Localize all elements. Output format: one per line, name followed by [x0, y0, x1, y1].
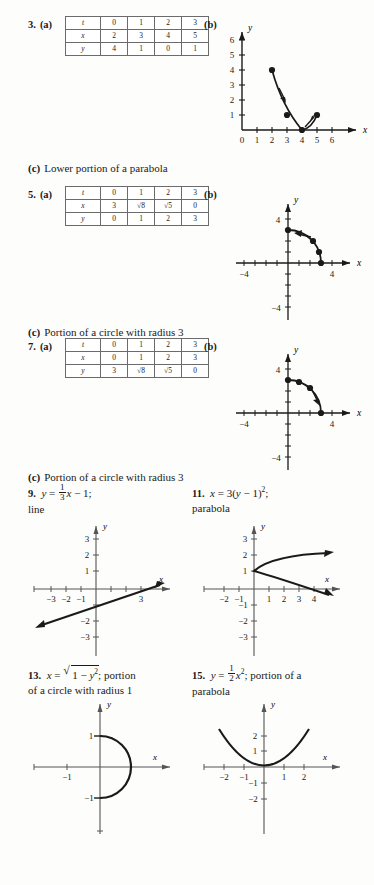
answer-13-heading: 13. x = √1 − y2; portion of a circle wit…: [28, 664, 193, 697]
problem-number: 7.: [28, 341, 36, 352]
y-tick-label: −3: [80, 632, 90, 642]
x-tick-label: 2: [302, 772, 307, 782]
y-axis-label: y: [293, 195, 299, 205]
problem-3-part-b-label: (b): [204, 14, 217, 32]
table-row: t 0 1 2 3: [66, 339, 209, 352]
y-tick-label: 1: [85, 566, 90, 576]
table-cell: 3: [182, 213, 209, 226]
y-tick-label: 6: [230, 35, 235, 45]
answer-description: line: [28, 502, 188, 516]
arrow-head: [155, 581, 165, 588]
data-points: [285, 227, 324, 266]
y-tick-label: 1: [243, 566, 248, 576]
part-b-label: (b): [204, 189, 217, 200]
table-row: x 3 √8 √5 0: [66, 200, 209, 213]
row-header: y: [66, 365, 101, 378]
table-cell: 3: [101, 365, 128, 378]
y-tick-label: 1: [230, 110, 235, 120]
y-tick-label: −2: [238, 616, 248, 626]
table-cell: 0: [155, 43, 182, 56]
part-c-text: Portion of a circle with radius 3: [44, 326, 183, 338]
part-c-label: (c): [28, 162, 40, 174]
problem-5-number-label: 5. (a): [28, 184, 52, 202]
y-tick-label: 2: [85, 550, 90, 560]
answer-15-graph: −2 −1 1 2 2 1 −1 −2 x y: [192, 694, 352, 844]
y-tick-label: 3: [243, 534, 248, 544]
y-tick-label: 1: [253, 746, 258, 756]
answer-9-heading: 9. y = 13x − 1; line: [28, 483, 188, 516]
answer-13-graph: −1 1 −1 x y: [22, 694, 182, 844]
x-axis-label: x: [356, 258, 362, 268]
table-cell: 0: [101, 352, 128, 365]
y-axis-label: y: [270, 699, 275, 709]
y-tick-label: 4: [230, 65, 235, 75]
fraction-one-third: 13: [59, 483, 66, 502]
table-row: y 0 1 2 3: [66, 213, 209, 226]
x-tick-label: −2: [61, 594, 71, 604]
row-header: t: [66, 187, 101, 200]
part-a-label: (a): [40, 189, 52, 200]
table-cell: 0: [101, 187, 128, 200]
table-row: t 0 1 2 3: [66, 17, 209, 30]
answer-equation: x: [44, 669, 52, 681]
problem-number: 3.: [28, 19, 36, 30]
row-header: x: [66, 352, 101, 365]
answer-11-graph: −2 −1 1 2 3 4 3 2 1 −1 −2 −3 x y: [192, 516, 352, 664]
table-cell: 3: [101, 200, 128, 213]
table-cell: 0: [101, 213, 128, 226]
y-tick-label: −1: [238, 600, 248, 610]
problem-7-graph: −4 4 4 −4 x y: [228, 340, 374, 480]
y-tick-label: 3: [85, 534, 90, 544]
problem-7-part-b-label: (b): [204, 336, 217, 354]
table-row: y 4 1 0 1: [66, 43, 209, 56]
x-tick-label: −1: [76, 594, 86, 604]
answer-number: 13.: [28, 670, 41, 681]
table-cell: 1: [128, 17, 155, 30]
table-cell: 2: [155, 352, 182, 365]
x-tick-label: 6: [330, 135, 335, 145]
part-c-label: (c): [28, 471, 40, 483]
row-header: y: [66, 43, 101, 56]
answer-key-page: 3. (a) t 0 1 2 3 x 2 3 4 5 y 4 1 0: [0, 0, 374, 885]
table-row: x 2 3 4 5: [66, 30, 209, 43]
table-cell: 4: [101, 43, 128, 56]
y-tick-label: −3: [238, 632, 248, 642]
table-cell: 0: [101, 339, 128, 352]
x-tick-label: 4: [330, 419, 335, 429]
y-axis-label: y: [106, 699, 111, 709]
part-b-label: (b): [204, 19, 217, 30]
curve: [39, 585, 160, 626]
x-tick-label: −4: [239, 419, 249, 429]
x-axis-label: x: [152, 752, 157, 762]
problem-number: 5.: [28, 189, 36, 200]
y-tick-label: 2: [243, 550, 248, 560]
y-axis-label: y: [102, 521, 107, 531]
x-tick-label: 4: [330, 269, 335, 279]
answer-equation: y: [39, 487, 47, 499]
table-row: x 0 1 2 3: [66, 352, 209, 365]
row-header: x: [66, 200, 101, 213]
answer-number: 9.: [28, 488, 36, 499]
table-cell: 1: [128, 352, 155, 365]
y-tick-label: −1: [248, 778, 258, 788]
table-cell: 0: [101, 17, 128, 30]
answer-equation: y: [208, 669, 216, 681]
x-tick-label: 4: [300, 135, 305, 145]
row-header: t: [66, 17, 101, 30]
table-cell: 2: [155, 339, 182, 352]
x-axis-label: x: [322, 752, 327, 762]
table-cell: 2: [155, 213, 182, 226]
data-points: [285, 377, 324, 416]
part-a-label: (a): [40, 19, 52, 30]
table-cell: 1: [128, 339, 155, 352]
y-tick-label: −4: [271, 453, 281, 463]
problem-3-graph: 0 1 2 3 4 5 6 1 2 3 4 5 6 x y: [224, 18, 374, 148]
table-cell: 0: [182, 365, 209, 378]
table-cell: 4: [155, 30, 182, 43]
arrow-head: [324, 550, 334, 557]
table-cell: 2: [155, 187, 182, 200]
part-b-label: (b): [204, 341, 217, 352]
problem-3-part-c: (c) Lower portion of a parabola: [28, 158, 168, 176]
part-c-text: Lower portion of a parabola: [44, 162, 167, 174]
y-tick-label: 2: [230, 95, 235, 105]
